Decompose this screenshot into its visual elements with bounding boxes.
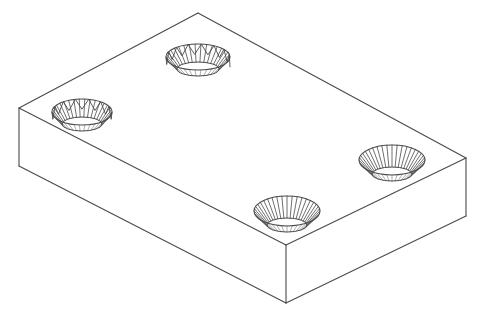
isometric-plate-drawing [0, 0, 487, 322]
drawing-canvas [0, 0, 487, 322]
